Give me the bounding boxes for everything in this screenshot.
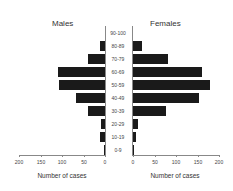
x-tick xyxy=(84,155,85,157)
x-tick-label: 200 xyxy=(211,159,227,165)
age-group-label: 80-89 xyxy=(104,43,132,49)
age-group-label: 0-9 xyxy=(104,147,132,153)
x-tick-label: 100 xyxy=(54,159,70,165)
female-bar xyxy=(133,67,202,77)
male-bar xyxy=(101,119,105,129)
females-x-axis-label: Number of cases xyxy=(135,172,215,179)
x-tick xyxy=(62,155,63,157)
males-x-axis xyxy=(20,155,106,156)
x-tick xyxy=(19,155,20,157)
x-tick-label: 50 xyxy=(147,159,163,165)
male-bar xyxy=(88,106,105,116)
x-tick xyxy=(219,155,220,157)
male-bar xyxy=(100,132,105,142)
age-group-label: 50-59 xyxy=(104,82,132,88)
female-bar xyxy=(133,54,168,64)
female-bar xyxy=(133,106,166,116)
x-tick-label: 0 xyxy=(97,159,113,165)
x-tick xyxy=(133,155,134,157)
x-tick-label: 200 xyxy=(11,159,27,165)
female-bar xyxy=(133,93,199,103)
male-bar xyxy=(59,80,105,90)
x-tick xyxy=(198,155,199,157)
age-group-label: 40-49 xyxy=(104,95,132,101)
age-group-label: 70-79 xyxy=(104,56,132,62)
age-group-label: 60-69 xyxy=(104,69,132,75)
x-tick-label: 150 xyxy=(33,159,49,165)
female-bar xyxy=(133,119,138,129)
x-tick-label: 0 xyxy=(125,159,141,165)
x-tick xyxy=(41,155,42,157)
males-panel-title: Males xyxy=(52,19,73,28)
age-group-label: 20-29 xyxy=(104,121,132,127)
male-bar xyxy=(58,67,105,77)
female-bar xyxy=(133,145,134,155)
age-group-label: 10-19 xyxy=(104,134,132,140)
females-panel-title: Females xyxy=(150,19,181,28)
female-bar xyxy=(133,41,142,51)
age-group-label: 90-100 xyxy=(104,30,132,36)
x-tick-label: 100 xyxy=(168,159,184,165)
male-bar xyxy=(88,54,105,64)
x-tick xyxy=(155,155,156,157)
x-tick xyxy=(105,155,106,157)
x-tick-label: 50 xyxy=(76,159,92,165)
x-tick xyxy=(176,155,177,157)
x-tick-label: 150 xyxy=(190,159,206,165)
male-bar xyxy=(100,41,105,51)
female-bar xyxy=(133,132,136,142)
age-group-label: 30-39 xyxy=(104,108,132,114)
males-x-axis-label: Number of cases xyxy=(22,172,102,179)
female-bar xyxy=(133,80,210,90)
male-bar xyxy=(104,145,105,155)
male-bar xyxy=(76,93,105,103)
